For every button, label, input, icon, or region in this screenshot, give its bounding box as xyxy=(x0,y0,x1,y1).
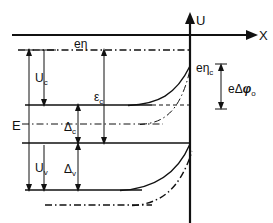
e-eta-label: eη xyxy=(74,37,87,51)
E-arrowhead-down xyxy=(26,184,32,192)
e-eta-c-label-sub: c xyxy=(209,68,213,77)
conduction-band-bent-curve xyxy=(128,66,190,106)
Uc-label: Uc xyxy=(35,71,48,87)
e-eta-c-label-main: eη xyxy=(196,61,209,75)
Uv-label: Uv xyxy=(35,161,48,177)
epsilon-c-arrowhead-down xyxy=(101,137,107,145)
epsilon-c-label-sub: c xyxy=(99,97,103,106)
Delta-v-label: Δv xyxy=(64,162,76,178)
Uc-label-main: U xyxy=(35,71,44,85)
e-delta-phi-label: eΔφo xyxy=(228,82,256,98)
Delta-c-arrowhead-up xyxy=(75,103,81,111)
u-axis-arrowhead xyxy=(185,12,195,24)
Uc-arrowhead-down xyxy=(41,99,47,107)
Uv-label-main: U xyxy=(35,161,44,175)
Delta-c-label: Δc xyxy=(64,120,76,136)
band-diagram-figure: U X eη eηc Uc Uv E εc xyxy=(0,0,273,223)
epsilon-c-label: εc xyxy=(94,90,103,106)
u-axis-label: U xyxy=(196,13,205,28)
e-eta-c-label: eηc xyxy=(196,61,213,77)
band-bending-curves-group xyxy=(120,66,192,206)
axes-group xyxy=(12,12,258,223)
Uc-label-sub: c xyxy=(44,78,48,87)
e-delta-phi-label-sub: o xyxy=(251,89,256,98)
E-arrowhead-up xyxy=(26,48,32,56)
E-label: E xyxy=(12,118,21,133)
x-axis-arrowhead xyxy=(246,30,258,40)
labels-group: U X eη eηc Uc Uv E εc xyxy=(12,13,268,178)
band-diagram-svg: U X eη eηc Uc Uv E εc xyxy=(0,0,273,223)
Delta-c-label-sub: c xyxy=(72,127,76,136)
Delta-v-label-sub: v xyxy=(72,169,76,178)
Delta-v-label-main: Δ xyxy=(64,162,72,176)
Uv-arrowhead-down xyxy=(41,184,47,192)
e-delta-phi-label-main: eΔ xyxy=(228,82,243,96)
valence-band-bent-curve xyxy=(120,144,190,191)
x-axis-label: X xyxy=(259,28,268,43)
Uv-label-sub: v xyxy=(44,168,48,177)
epsilon-c-arrowhead-up xyxy=(101,48,107,56)
Delta-c-label-main: Δ xyxy=(64,120,72,134)
Delta-v-arrowhead-down xyxy=(75,184,81,192)
